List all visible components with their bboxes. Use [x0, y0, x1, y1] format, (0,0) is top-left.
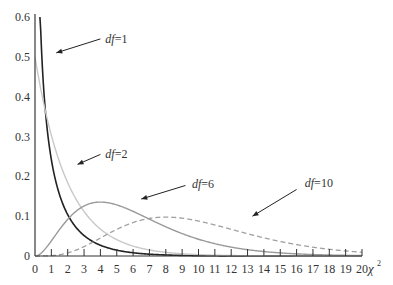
x-tick-label: 9 — [179, 262, 185, 276]
x-tick-label: 18 — [323, 262, 335, 276]
y-tick-label: 0.3 — [15, 130, 30, 144]
x-axis-label: χ — [366, 261, 374, 276]
y-tick-label: 0.4 — [15, 90, 30, 104]
y-tick-label: 0.1 — [15, 209, 30, 223]
curve-df-6 — [35, 202, 362, 256]
x-tick-label: 10 — [193, 262, 205, 276]
curves — [35, 17, 362, 256]
arrowhead-icon — [252, 211, 258, 216]
x-tick-label: 14 — [258, 262, 270, 276]
x-tick-label: 8 — [163, 262, 169, 276]
curve-df-1 — [40, 17, 362, 256]
x-tick-label: 2 — [65, 262, 71, 276]
y-tick-label: 0.2 — [15, 169, 30, 183]
chi-square-distribution-chart: 0123456789101112131415161718192000.10.20… — [0, 0, 393, 285]
y-tick-label: 0.5 — [15, 50, 30, 64]
x-tick-label: 7 — [146, 262, 152, 276]
x-tick-label: 11 — [209, 262, 221, 276]
arrowhead-icon — [56, 49, 62, 54]
x-tick-label: 15 — [274, 262, 286, 276]
x-tick-label: 17 — [307, 262, 319, 276]
series-label-df-1: df=1 — [105, 32, 127, 46]
axes: 0123456789101112131415161718192000.10.20… — [15, 10, 381, 276]
x-axis-label-superscript: 2 — [377, 259, 381, 268]
x-tick-label: 0 — [32, 262, 38, 276]
y-tick-label: 0 — [24, 249, 30, 263]
x-tick-label: 1 — [48, 262, 54, 276]
x-tick-label: 20 — [356, 262, 368, 276]
series-label-df-2: df=2 — [105, 147, 127, 161]
curve-df-2 — [35, 57, 362, 256]
series-label-df-6: df=6 — [192, 177, 214, 191]
series-labels: df=1df=2df=6df=10 — [56, 32, 333, 216]
label-arrow — [56, 39, 100, 53]
x-tick-label: 6 — [130, 262, 136, 276]
x-tick-label: 19 — [340, 262, 352, 276]
arrowhead-icon — [141, 195, 147, 200]
series-label-df-10: df=10 — [305, 176, 333, 190]
x-tick-label: 13 — [242, 262, 254, 276]
y-tick-label: 0.6 — [15, 10, 30, 24]
label-arrow — [252, 189, 296, 216]
x-tick-label: 12 — [225, 262, 237, 276]
label-arrow — [141, 185, 185, 199]
x-tick-label: 4 — [97, 262, 103, 276]
x-tick-label: 16 — [291, 262, 303, 276]
x-tick-label: 3 — [81, 262, 87, 276]
x-tick-label: 5 — [114, 262, 120, 276]
